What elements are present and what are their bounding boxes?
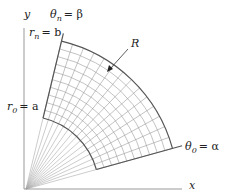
y-axis-label: y — [23, 8, 31, 21]
x-axis-label: x — [189, 179, 196, 192]
origin-ray — [26, 129, 68, 189]
region-boundary — [43, 33, 182, 169]
theta-n-label: θn= β — [50, 8, 83, 23]
origin-ray — [26, 126, 64, 189]
origin-ray — [26, 136, 77, 189]
r-n-label: rn= b — [29, 26, 61, 41]
r-0-label: r0= a — [7, 100, 39, 115]
origin-rays — [26, 118, 96, 189]
theta-0-label: θ0= α — [185, 140, 219, 155]
region-pointer-arrow — [107, 49, 128, 72]
region-label: R — [130, 37, 139, 50]
polar-region-diagram: y x θn= β rn= b r0= a θ0= α R — [0, 0, 238, 196]
origin-ray — [26, 149, 87, 189]
